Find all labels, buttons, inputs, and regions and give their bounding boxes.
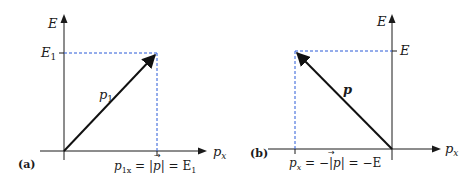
vector-arrow-icon: → <box>154 151 161 160</box>
y-axis-arrow-icon <box>61 14 68 23</box>
momentum-energy-diagram: E px E1 p1 (a) p1x = |p| = E1 → E E px p… <box>0 0 468 184</box>
x-tick-label: p1x = |p| = E1 <box>114 159 196 175</box>
y-tick-label: E <box>399 43 410 58</box>
vector-label: p <box>343 82 352 97</box>
momentum-vector <box>297 53 392 149</box>
panel-a: E px E1 p1 (a) p1x = |p| = E1 → <box>18 14 226 175</box>
vector-arrow-icon: → <box>328 148 335 157</box>
y-axis-arrow-icon <box>389 14 396 23</box>
x-axis-label: px <box>445 141 458 158</box>
vector-label: p1 <box>99 87 113 104</box>
x-axis-arrow-icon <box>198 148 207 155</box>
y-axis-label: E <box>47 16 58 31</box>
panel-tag: (b) <box>250 147 268 160</box>
panel-tag: (a) <box>18 158 36 171</box>
panel-b: E E px p (b) px = −|p| = −E → <box>250 14 458 172</box>
y-axis-label: E <box>376 14 387 29</box>
x-axis-label: px <box>213 144 226 161</box>
x-tick-label: px = −|p| = −E <box>289 156 381 172</box>
y-tick-label: E1 <box>40 45 56 62</box>
x-axis-arrow-icon <box>432 146 441 153</box>
